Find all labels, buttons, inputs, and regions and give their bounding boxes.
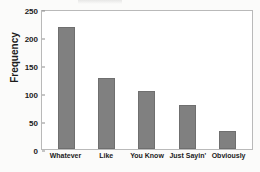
bar-slot <box>219 11 236 149</box>
x-tick-label: You Know <box>127 151 167 165</box>
plot-area: 050100150200250 <box>41 10 253 150</box>
bar-like <box>98 78 115 149</box>
y-tick-label: 200 <box>25 35 42 44</box>
bar-slot <box>179 11 196 149</box>
bar-whatever <box>58 27 75 149</box>
bar-you-know <box>138 91 155 149</box>
cropped-title-remnant <box>78 0 122 4</box>
bar-just-sayin <box>179 105 196 149</box>
bar-slot <box>138 11 155 149</box>
x-tick-label: Whatever <box>45 151 85 165</box>
x-tick-label: Just Sayin' <box>168 151 208 165</box>
y-tick-label: 250 <box>25 7 42 16</box>
x-tick-label: Like <box>86 151 126 165</box>
x-axis-tick-labels: WhateverLikeYou KnowJust Sayin'Obviously <box>41 151 253 165</box>
bar-obviously <box>219 131 236 149</box>
x-tick-label: Obviously <box>209 151 249 165</box>
y-axis-title: Frequency <box>9 13 20 103</box>
bar-slot <box>98 11 115 149</box>
bar-chart: Frequency 050100150200250 WhateverLikeYo… <box>0 0 260 172</box>
y-tick-label: 150 <box>25 63 42 72</box>
bar-series <box>42 11 252 149</box>
y-tick-label: 50 <box>29 119 42 128</box>
y-tick-label: 100 <box>25 91 42 100</box>
bar-slot <box>58 11 75 149</box>
